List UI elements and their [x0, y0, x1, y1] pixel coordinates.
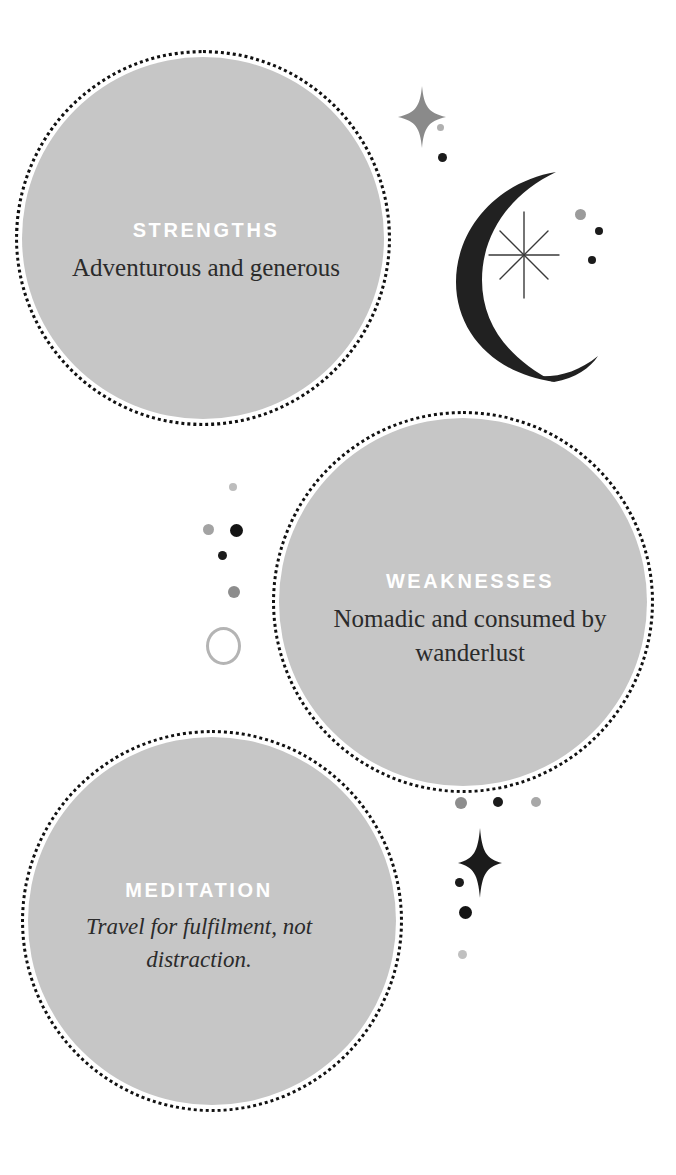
- bubble-meditation-heading: MEDITATION: [125, 879, 272, 901]
- decorative-dot: [455, 797, 467, 809]
- bubble-strengths[interactable]: STRENGTHS Adventurous and generous: [22, 57, 384, 419]
- decorative-dot: [438, 153, 447, 162]
- decorative-dot: [228, 586, 240, 598]
- bubble-weaknesses-heading: WEAKNESSES: [386, 570, 554, 592]
- hollow-ring-outline-icon: [206, 627, 241, 665]
- decorative-dot: [203, 524, 214, 535]
- bubble-weaknesses[interactable]: WEAKNESSES Nomadic and consumed by wande…: [279, 418, 647, 786]
- decorative-dot: [595, 227, 603, 235]
- poster-canvas: STRENGTHS Adventurous and generous WEAKN…: [0, 0, 676, 1175]
- decorative-dot: [230, 524, 243, 537]
- decorative-dot: [458, 950, 467, 959]
- decorative-dot: [459, 906, 472, 919]
- bubble-meditation-body: Travel for fulfilment, not distraction.: [41, 911, 357, 976]
- bubble-meditation[interactable]: MEDITATION Travel for fulfilment, not di…: [28, 737, 396, 1105]
- four-point-sparkle-gray-icon: [398, 86, 446, 148]
- decorative-dot: [437, 124, 444, 131]
- decorative-dot: [218, 551, 227, 560]
- decorative-dot: [575, 209, 586, 220]
- decorative-dot: [455, 878, 464, 887]
- decorative-dot: [531, 797, 541, 807]
- four-point-sparkle-dark-icon: [458, 828, 502, 898]
- bubble-weaknesses-body: Nomadic and consumed by wanderlust: [312, 602, 628, 671]
- bubble-strengths-heading: STRENGTHS: [133, 219, 280, 241]
- eight-point-starburst-icon: [487, 212, 561, 298]
- bubble-strengths-body: Adventurous and generous: [72, 251, 340, 286]
- decorative-dot: [588, 256, 596, 264]
- decorative-dot: [493, 797, 503, 807]
- decorative-dot: [229, 483, 237, 491]
